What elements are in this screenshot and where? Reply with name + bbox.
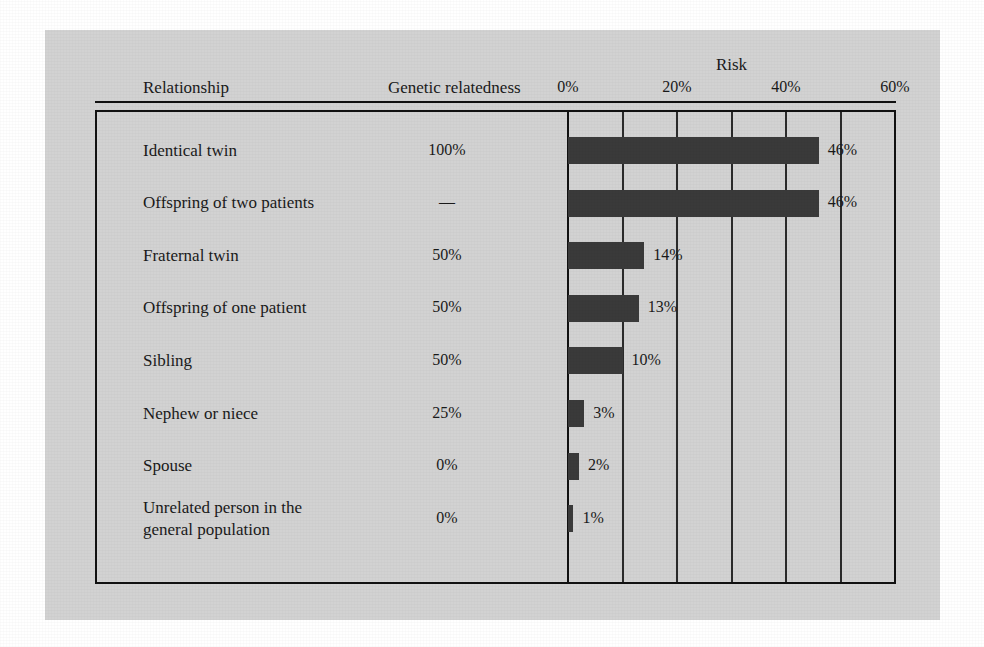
row-label: Sibling [143,350,192,372]
x-axis-tick-0: 0% [557,78,578,96]
risk-bar [568,505,573,532]
row-label: Nephew or niece [143,403,258,425]
row-genetic-relatedness: 50% [388,246,506,264]
risk-bar-value-label: 46% [828,193,857,211]
risk-bar [568,295,639,322]
x-axis-tick-60: 60% [880,78,909,96]
risk-bar [568,347,623,374]
row-genetic-relatedness: 0% [388,509,506,527]
chart-title-risk: Risk [568,55,895,75]
risk-bar-value-label: 14% [653,246,682,264]
row-label: Offspring of two patients [143,192,314,214]
row-genetic-relatedness: 100% [388,141,506,159]
risk-bar-value-label: 2% [588,456,609,474]
x-axis-tick-40: 40% [771,78,800,96]
row-label: Identical twin [143,140,237,162]
header-rule [95,101,896,103]
row-label: Spouse [143,455,192,477]
risk-bar-value-label: 1% [582,509,603,527]
risk-bar [568,400,584,427]
row-genetic-relatedness: 25% [388,404,506,422]
row-label: Fraternal twin [143,245,239,267]
risk-bar [568,190,819,217]
risk-bar [568,453,579,480]
column-header-genetic-relatedness: Genetic relatedness [388,78,521,98]
row-genetic-relatedness: 50% [388,351,506,369]
row-genetic-relatedness: 50% [388,298,506,316]
row-genetic-relatedness: 0% [388,456,506,474]
risk-bar-value-label: 10% [632,351,661,369]
column-header-relationship: Relationship [143,78,229,98]
risk-bar-value-label: 13% [648,298,677,316]
row-genetic-relatedness: — [388,193,506,211]
row-label: Offspring of one patient [143,297,307,319]
risk-bar [568,137,819,164]
risk-bar-value-label: 3% [593,404,614,422]
row-label: Unrelated person in the general populati… [143,497,302,541]
risk-bar-value-label: 46% [828,141,857,159]
risk-bar [568,242,644,269]
x-axis-tick-20: 20% [662,78,691,96]
figure-root: Relationship Genetic relatedness Risk 0%… [0,0,984,647]
